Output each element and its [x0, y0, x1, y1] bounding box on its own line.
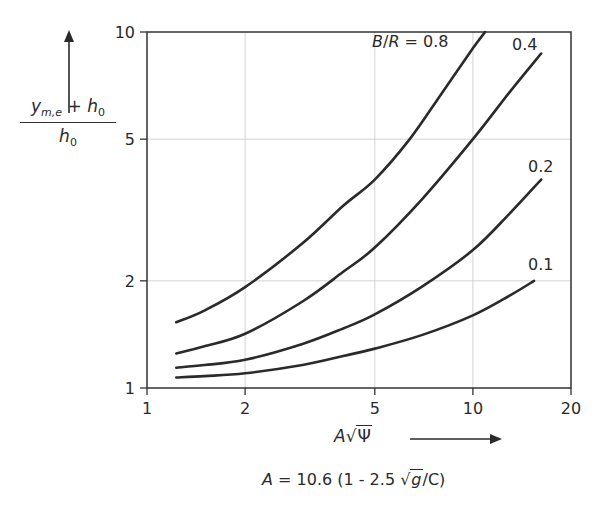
formula-a: A — [262, 470, 273, 489]
formula-end: /C) — [423, 470, 446, 489]
axes: 125102012510 — [115, 23, 582, 418]
y-tick-label: 10 — [115, 23, 135, 42]
curve-label: 0.1 — [528, 255, 553, 274]
sqrt-symbol: √ — [346, 426, 357, 446]
y-tick-label: 5 — [125, 130, 135, 149]
curve-label: 0.2 — [528, 157, 553, 176]
y-axis-label-denominator: h0 — [20, 123, 116, 149]
psi-var: Ψ — [356, 425, 371, 446]
x-tick-label: 20 — [561, 399, 581, 418]
x-tick-label: 5 — [370, 399, 380, 418]
x-axis-label: A√Ψ — [334, 426, 372, 446]
curves — [176, 32, 541, 378]
x-arrow-head-icon — [490, 434, 502, 444]
x-tick-label: 2 — [240, 399, 250, 418]
curve-label: 0.4 — [512, 35, 537, 54]
curve-label: B/R = 0.8 — [372, 32, 449, 51]
h-sub-den: 0 — [70, 137, 77, 150]
h-var: h — [87, 96, 98, 116]
x-tick-label: 10 — [463, 399, 483, 418]
formula-annotation: A = 10.6 (1 - 2.5 √g/C) — [262, 470, 445, 489]
y-arrow-head-icon — [64, 30, 74, 42]
y-axis-label-numerator: ym,e + h0 — [20, 96, 116, 123]
a-var: A — [334, 426, 346, 446]
y-axis-label: ym,e + h0 h0 — [20, 96, 116, 150]
gridlines — [147, 32, 571, 388]
formula-g: g — [410, 469, 422, 489]
y-var: y — [31, 96, 41, 116]
chart-canvas: 125102012510 B/R = 0.80.40.20.1 — [0, 0, 613, 516]
formula-mid: = 10.6 (1 - 2.5 — [273, 470, 400, 489]
h-var-den: h — [59, 126, 70, 146]
h-sub: 0 — [98, 106, 105, 119]
y-tick-label: 2 — [125, 272, 135, 291]
formula-sqrt: √ — [400, 470, 410, 489]
x-tick-label: 1 — [142, 399, 152, 418]
curve-b-r-0-8 — [176, 32, 485, 322]
plot-frame — [147, 32, 571, 388]
plus-sign: + — [62, 96, 87, 116]
y-tick-label: 1 — [125, 379, 135, 398]
y-sub: m,e — [41, 106, 62, 119]
